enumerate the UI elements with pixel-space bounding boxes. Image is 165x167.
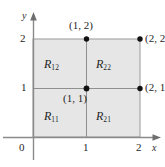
point-dot-1-2 [84,36,89,41]
region-label-R12: R12 [44,58,59,72]
region-subscript-R21: 21 [103,115,111,124]
x-axis-label: x [152,143,156,153]
point-label-1-2: (1, 2) [69,20,93,31]
region-subscript-R22: 22 [103,63,111,72]
y-axis-label: y [22,11,26,21]
point-label-1-1: (1, 1) [63,93,87,104]
x-axis-arrowhead [153,134,162,140]
point-label-2-1: (2, 1) [145,82,165,93]
region-label-R11: R11 [44,110,59,124]
math-figure: y x 2 1 0 1 2 (1, 2) (2, 2) (1, 1) (2, 1… [0,0,165,167]
region-subscript-R11: 11 [51,115,59,124]
x-tick-1: 1 [83,142,89,153]
origin-label: 0 [19,142,25,153]
point-label-2-2: (2, 2) [145,33,165,44]
region-label-R21: R21 [96,110,111,124]
y-tick-1: 1 [21,82,27,93]
region-subscript-R12: 12 [51,63,59,72]
point-dot-2-2 [137,36,142,41]
point-dot-1-1 [84,86,90,92]
x-tick-2: 2 [136,142,142,153]
region-label-R22: R22 [96,58,111,72]
y-axis-arrowhead [30,12,37,21]
y-tick-2: 2 [20,33,26,44]
point-dot-2-1 [137,86,142,91]
